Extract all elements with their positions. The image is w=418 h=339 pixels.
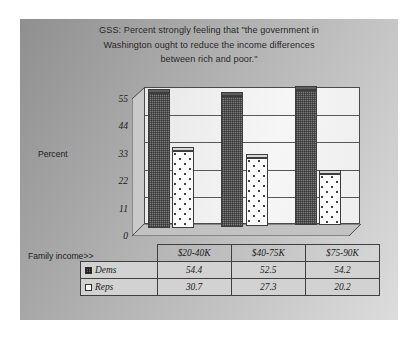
bar-cap-dems-3: [295, 86, 317, 90]
bar-dems-3: [295, 90, 317, 225]
category-label-3: $75-90K: [305, 245, 379, 262]
y-tick-55: 55: [106, 93, 128, 104]
y-tick-22: 22: [106, 175, 128, 186]
bar-reps-2: [246, 158, 268, 226]
chart-title-line-2: Washington ought to reduce the income di…: [42, 38, 376, 53]
legend-item-reps[interactable]: Reps: [81, 279, 158, 296]
y-tick-11: 11: [106, 203, 128, 214]
legend-item-dems[interactable]: Dems: [81, 262, 158, 279]
bar-cap-dems-1: [148, 89, 170, 93]
bar-cap-reps-1: [172, 147, 194, 151]
category-label-1: $20-40K: [157, 245, 231, 262]
category-header-row: $20-40K$40-75K$75-90K: [81, 245, 380, 262]
chart-title: GSS: Percent strongly feeling that "the …: [42, 23, 376, 67]
cell-reps-1: 30.7: [157, 279, 231, 296]
bar-reps-3: [319, 174, 341, 224]
y-tick-44: 44: [106, 120, 128, 131]
cell-dems-3: 54.2: [305, 262, 379, 279]
data-table: $20-40K$40-75K$75-90KDems54.452.554.2Rep…: [80, 244, 380, 296]
crosshatch-swatch-icon: [85, 267, 92, 274]
cell-dems-2: 52.5: [231, 262, 305, 279]
legend-label-reps: Reps: [95, 282, 113, 292]
bar-cap-reps-2: [246, 154, 268, 158]
table-corner-spacer: [81, 245, 158, 262]
y-tick-0: 0: [106, 230, 128, 241]
bar-dems-1: [148, 93, 170, 229]
bars-layer: [132, 87, 380, 244]
bar-reps-1: [172, 151, 194, 227]
table-row: Reps30.727.320.2: [81, 279, 380, 296]
chart-title-line-3: between rich and poor.": [42, 52, 376, 67]
category-label-2: $40-75K: [231, 245, 305, 262]
slide-canvas: GSS: Percent strongly feeling that "the …: [20, 19, 398, 320]
legend-label-dems: Dems: [95, 265, 116, 275]
y-axis-tick-labels: 01122334455: [102, 87, 128, 247]
cell-reps-3: 20.2: [305, 279, 379, 296]
y-tick-33: 33: [106, 148, 128, 159]
cell-reps-2: 27.3: [231, 279, 305, 296]
bar-cap-dems-2: [221, 92, 243, 96]
chart-title-line-1: GSS: Percent strongly feeling that "the …: [42, 23, 376, 38]
y-axis-title: Percent: [38, 149, 68, 159]
plot-area: [132, 87, 380, 244]
dotted-swatch-icon: [85, 284, 92, 291]
bar-dems-2: [221, 96, 243, 227]
table-row: Dems54.452.554.2: [81, 262, 380, 279]
bar-cap-reps-3: [319, 170, 341, 174]
cell-dems-1: 54.4: [157, 262, 231, 279]
